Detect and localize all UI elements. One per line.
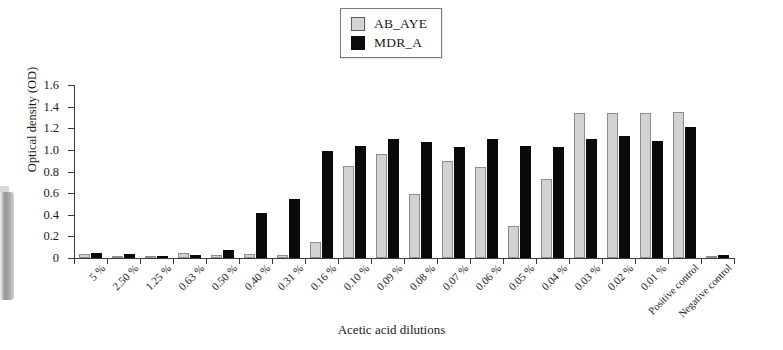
legend-item-mdr-a: MDR_A <box>351 33 427 52</box>
bar-group <box>140 85 173 258</box>
bar-mdr-a <box>685 127 696 258</box>
chart-figure: AB_AYE MDR_A Optical density (OD) 00.20.… <box>0 0 783 350</box>
x-tick-label: 0.05 % <box>505 262 536 293</box>
bar-mdr-a <box>289 199 300 258</box>
bar-group <box>437 85 470 258</box>
bar-mdr-a <box>124 254 135 258</box>
plot-area: 00.20.40.60.81.01.21.41.6 <box>74 85 734 258</box>
x-tick-label: 0.31 % <box>274 262 305 293</box>
bar-mdr-a <box>322 151 333 258</box>
x-tick-label: 0.50 % <box>208 262 239 293</box>
bar-ab-aye <box>178 253 189 258</box>
bar-ab-aye <box>112 256 123 258</box>
bar-ab-aye <box>541 179 552 258</box>
y-tick-label: 1.4 <box>43 99 59 114</box>
scan-artifact-secondary <box>0 186 9 192</box>
bar-group <box>107 85 140 258</box>
scan-artifact <box>0 192 14 300</box>
bar-series-container <box>74 85 734 258</box>
bar-mdr-a <box>223 250 234 258</box>
bar-ab-aye <box>310 242 321 258</box>
bar-ab-aye <box>640 113 651 258</box>
bar-group <box>173 85 206 258</box>
bar-mdr-a <box>91 253 102 258</box>
bar-ab-aye <box>574 113 585 258</box>
bar-group <box>569 85 602 258</box>
x-tick-label: 0.08 % <box>406 262 437 293</box>
x-tick-label: 0.09 % <box>373 262 404 293</box>
bar-mdr-a <box>619 136 630 258</box>
bar-group <box>668 85 701 258</box>
bar-group <box>206 85 239 258</box>
bar-mdr-a <box>520 146 531 258</box>
bar-ab-aye <box>277 255 288 258</box>
bar-mdr-a <box>421 142 432 258</box>
bar-mdr-a <box>388 139 399 258</box>
black-square-icon <box>351 36 365 50</box>
bar-group <box>74 85 107 258</box>
y-tick-label: 1.0 <box>43 142 59 157</box>
bar-mdr-a <box>157 256 168 258</box>
bar-ab-aye <box>508 226 519 258</box>
y-tick-label: 0.2 <box>43 229 59 244</box>
bar-ab-aye <box>343 166 354 258</box>
gray-square-icon <box>351 17 365 31</box>
x-tick-label: 5 % <box>86 262 107 283</box>
x-tick <box>734 258 735 264</box>
x-tick-label: 0.01 % <box>637 262 668 293</box>
bar-ab-aye <box>673 112 684 258</box>
x-tick-label: 0.07 % <box>439 262 470 293</box>
bar-ab-aye <box>145 256 156 258</box>
bar-group <box>338 85 371 258</box>
x-tick-label: 0.02 % <box>604 262 635 293</box>
bar-mdr-a <box>553 147 564 258</box>
bar-ab-aye <box>79 254 90 258</box>
bar-ab-aye <box>211 255 222 258</box>
x-tick-label: 0.04 % <box>538 262 569 293</box>
bar-mdr-a <box>487 139 498 258</box>
y-tick-label: 1.2 <box>43 121 59 136</box>
bar-group <box>536 85 569 258</box>
x-tick-label: 1.25 % <box>142 262 173 293</box>
bar-group <box>635 85 668 258</box>
x-axis-tick-labels: 5 %2.50 %1.25 %0.63 %0.50 %0.40 %0.31 %0… <box>74 262 734 322</box>
y-tick-label: 0.8 <box>43 164 59 179</box>
bar-ab-aye <box>442 161 453 258</box>
x-tick-label: 2.50 % <box>109 262 140 293</box>
x-tick-label: 0.06 % <box>472 262 503 293</box>
bar-group <box>503 85 536 258</box>
bar-ab-aye <box>475 167 486 258</box>
x-tick-label: 0.40 % <box>241 262 272 293</box>
bar-group <box>272 85 305 258</box>
bar-group <box>470 85 503 258</box>
x-axis-title: Acetic acid dilutions <box>0 322 783 338</box>
legend-item-ab-aye: AB_AYE <box>351 14 427 33</box>
y-tick-label: 0.6 <box>43 186 59 201</box>
y-tick-label: 1.6 <box>43 78 59 93</box>
legend-label-ab-aye: AB_AYE <box>374 16 427 32</box>
bar-mdr-a <box>256 213 267 258</box>
bar-mdr-a <box>652 141 663 258</box>
bar-mdr-a <box>586 139 597 258</box>
bar-mdr-a <box>190 255 201 258</box>
x-tick-label: 0.63 % <box>175 262 206 293</box>
bar-ab-aye <box>607 113 618 258</box>
y-tick-label: 0.4 <box>43 207 59 222</box>
y-tick-label: 0 <box>53 251 59 266</box>
bar-group <box>602 85 635 258</box>
chart-legend: AB_AYE MDR_A <box>340 8 442 58</box>
x-tick-label: 0.10 % <box>340 262 371 293</box>
bar-mdr-a <box>718 255 729 258</box>
bar-group <box>371 85 404 258</box>
bar-group <box>701 85 734 258</box>
bar-ab-aye <box>409 194 420 258</box>
bar-ab-aye <box>706 256 717 258</box>
x-tick-label: 0.16 % <box>307 262 338 293</box>
bar-ab-aye <box>376 154 387 258</box>
bar-group <box>404 85 437 258</box>
x-tick-label: 0.03 % <box>571 262 602 293</box>
bar-group <box>239 85 272 258</box>
bar-ab-aye <box>244 254 255 258</box>
legend-label-mdr-a: MDR_A <box>374 35 422 51</box>
bar-mdr-a <box>454 147 465 258</box>
